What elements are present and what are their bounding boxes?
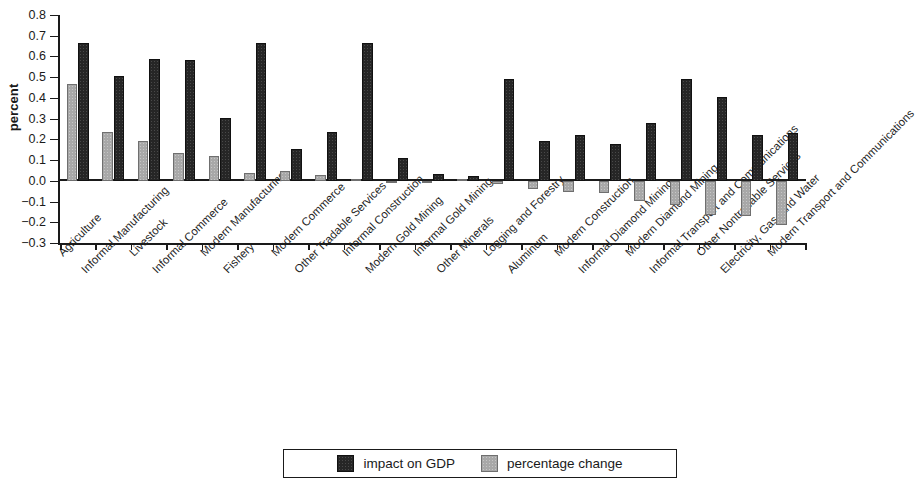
bar-percentage-change [741,181,752,216]
x-axis-tick [486,243,488,250]
bar-percentage-change [315,175,326,181]
legend-swatch-dark-icon [337,455,354,472]
legend-item-percentage-change: percentage change [481,455,623,472]
y-axis-tick-label: 0.3 [8,112,46,126]
bar-impact-on-gdp [256,43,267,181]
bar-percentage-change [599,181,610,193]
bar-impact-on-gdp [681,79,692,181]
bar-impact-on-gdp [78,43,89,181]
x-axis-tick [699,243,701,250]
bar-impact-on-gdp [539,141,550,180]
x-axis-tick [521,243,523,250]
bar-impact-on-gdp [646,123,657,181]
y-axis-tick [50,36,58,37]
x-axis-tick [770,243,772,250]
legend-label-impact-on-gdp: impact on GDP [363,456,455,471]
x-axis-tick [131,243,133,250]
bar-percentage-change [670,181,681,205]
bar-percentage-change [705,181,716,215]
bar-percentage-change [776,181,787,226]
bar-impact-on-gdp [433,174,444,181]
y-axis-tick [50,181,58,182]
bar-impact-on-gdp [398,158,409,181]
bar-impact-on-gdp [220,118,231,181]
x-axis-tick [805,243,807,250]
x-axis-tick [237,243,239,250]
bar-percentage-change [351,179,362,181]
bar-impact-on-gdp [114,76,125,181]
bar-impact-on-gdp [185,60,196,181]
x-axis-tick [450,243,452,250]
x-axis-tick [415,243,417,250]
y-axis-tick-label: 0.1 [8,153,46,167]
y-axis-tick-label: 0.0 [8,174,46,188]
bar-impact-on-gdp [468,176,479,181]
y-axis-tick [50,160,58,161]
y-axis-tick [50,15,58,16]
bar-impact-on-gdp [504,79,515,181]
bar-percentage-change [528,181,539,189]
y-axis-tick [50,243,58,244]
x-axis-tick [592,243,594,250]
bar-impact-on-gdp [149,59,160,181]
bar-percentage-change [244,173,255,181]
y-axis-tick-label: 0.2 [8,132,46,146]
x-axis-tick [663,243,665,250]
bar-percentage-change [138,141,149,180]
bar-percentage-change [209,156,220,181]
x-axis-tick [557,243,559,250]
y-axis-tick [50,98,58,99]
y-axis-tick-label: 0.6 [8,49,46,63]
y-axis-tick-label: −0.2 [8,215,46,229]
bar-impact-on-gdp [752,135,763,181]
y-axis-tick [50,202,58,203]
y-axis-tick [50,56,58,57]
y-axis-tick-label: 0.8 [8,8,46,22]
bar-percentage-change [173,153,184,181]
bar-percentage-change [563,181,574,192]
y-axis-tick-label: −0.1 [8,195,46,209]
y-axis-tick [50,139,58,140]
y-axis-tick-label: 0.7 [8,29,46,43]
plot-area [60,15,805,243]
y-axis-tick-group: 0.80.70.60.50.40.30.20.10.0−0.1−0.2−0.3 [0,0,60,479]
bar-impact-on-gdp [788,133,799,181]
bar-impact-on-gdp [291,149,302,181]
bar-impact-on-gdp [327,132,338,181]
x-axis-tick [734,243,736,250]
y-axis-tick [50,222,58,223]
bar-percentage-change [492,181,503,184]
bar-impact-on-gdp [610,144,621,181]
x-axis-tick [95,243,97,250]
y-axis-tick [50,119,58,120]
y-axis-tick-label: 0.4 [8,91,46,105]
x-axis-tick [60,243,62,250]
bar-percentage-change [67,84,78,180]
bar-percentage-change [102,132,113,181]
x-axis-tick [379,243,381,250]
y-axis-tick-label: −0.3 [8,236,46,250]
x-axis-tick [273,243,275,250]
chart-legend: impact on GDP percentage change [283,449,677,478]
legend-item-impact-on-gdp: impact on GDP [337,455,455,472]
legend-label-percentage-change: percentage change [507,456,623,471]
x-axis-tick [308,243,310,250]
x-axis-line [58,243,806,245]
bar-percentage-change [457,179,468,181]
bar-percentage-change [634,181,645,201]
x-axis-tick [628,243,630,250]
x-axis-tick [166,243,168,250]
bar-percentage-change [280,171,291,180]
y-axis-tick-label: 0.5 [8,70,46,84]
bar-impact-on-gdp [717,97,728,181]
bar-impact-on-gdp [362,43,373,181]
legend-swatch-light-icon [481,455,498,472]
bar-impact-on-gdp [575,135,586,181]
x-axis-tick [202,243,204,250]
bar-percentage-change [422,181,433,183]
x-axis-tick [344,243,346,250]
bar-percentage-change [386,181,397,183]
y-axis-tick [50,77,58,78]
